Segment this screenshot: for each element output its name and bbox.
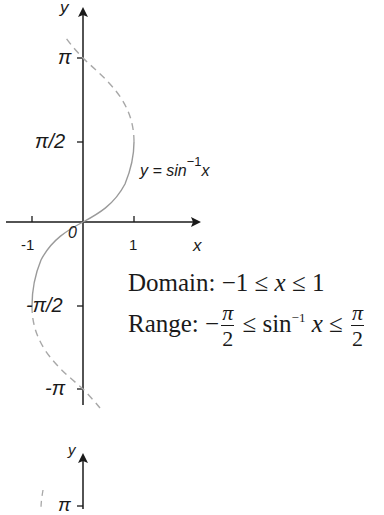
fraction-pi-over-2: π2 [351, 302, 364, 350]
second-dashed-curve [41, 490, 43, 509]
range-annotation: Range: −π2 ≤ sin−1 x ≤ π2 [128, 302, 366, 350]
second-y-tick-label-pi: π [58, 494, 71, 515]
dashed-extension-upper [66, 38, 134, 142]
x-tick-label-neg1: -1 [21, 236, 34, 253]
y-axis-label: y [60, 0, 69, 18]
origin-label: 0 [68, 224, 77, 242]
x-axis-label: x [193, 236, 202, 256]
y-tick-label-pi-half: π/2 [35, 130, 65, 153]
fraction-neg-pi-over-2: π2 [221, 302, 234, 350]
y-tick-label-pi: π [58, 46, 71, 69]
curve-label: y = sin−1x [140, 154, 210, 180]
x-tick-label-1: 1 [129, 236, 137, 253]
y-tick-label-neg-pi: -π [45, 377, 65, 400]
domain-annotation: Domain: −1 ≤ x ≤ 1 [128, 269, 324, 297]
y-tick-label-neg-pi-half: -π/2 [26, 294, 63, 317]
dashed-extension-lower [32, 306, 100, 408]
second-y-axis-label: y [68, 441, 76, 458]
